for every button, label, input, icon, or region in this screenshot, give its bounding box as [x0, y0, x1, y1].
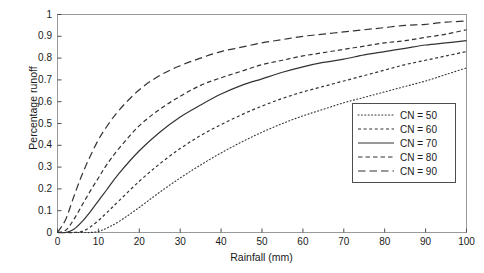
y-tick-label: 0.1 — [24, 206, 52, 216]
legend-label: CN = 60 — [396, 124, 437, 135]
x-tick-label: 80 — [370, 236, 400, 247]
x-tick-label: 20 — [124, 236, 154, 247]
legend-item: CN = 80 — [356, 150, 451, 164]
legend-item: CN = 90 — [356, 164, 451, 178]
x-axis-tick-labels: 0102030405060708090100 — [0, 236, 484, 252]
legend-line-swatch — [356, 152, 396, 162]
y-axis-title: Percentage runoff — [27, 13, 39, 203]
x-tick-label: 40 — [206, 236, 236, 247]
legend-label: CN = 90 — [396, 166, 437, 177]
runoff-curve-number-chart: 00.10.20.30.40.50.60.70.80.91 0102030405… — [0, 0, 484, 273]
x-tick-label: 30 — [165, 236, 195, 247]
x-tick-label: 70 — [329, 236, 359, 247]
y-axis-ticks — [58, 15, 62, 233]
x-axis-ticks — [58, 229, 467, 233]
legend-line-swatch — [356, 110, 396, 120]
legend-line-swatch — [356, 138, 396, 148]
x-tick-label: 10 — [83, 236, 113, 247]
legend-line-swatch — [356, 166, 396, 176]
legend-item: CN = 60 — [356, 122, 451, 136]
x-tick-label: 0 — [43, 236, 73, 247]
legend: CN = 50CN = 60CN = 70CN = 80CN = 90 — [352, 103, 456, 183]
legend-label: CN = 50 — [396, 110, 437, 121]
x-tick-label: 90 — [411, 236, 441, 247]
x-tick-label: 60 — [288, 236, 318, 247]
legend-label: CN = 70 — [396, 138, 437, 149]
x-tick-label: 100 — [452, 236, 482, 247]
legend-label: CN = 80 — [396, 152, 437, 163]
x-axis-title: Rainfall (mm) — [57, 251, 466, 263]
x-tick-label: 50 — [247, 236, 277, 247]
legend-line-swatch — [356, 124, 396, 134]
legend-item: CN = 70 — [356, 136, 451, 150]
legend-item: CN = 50 — [356, 108, 451, 122]
